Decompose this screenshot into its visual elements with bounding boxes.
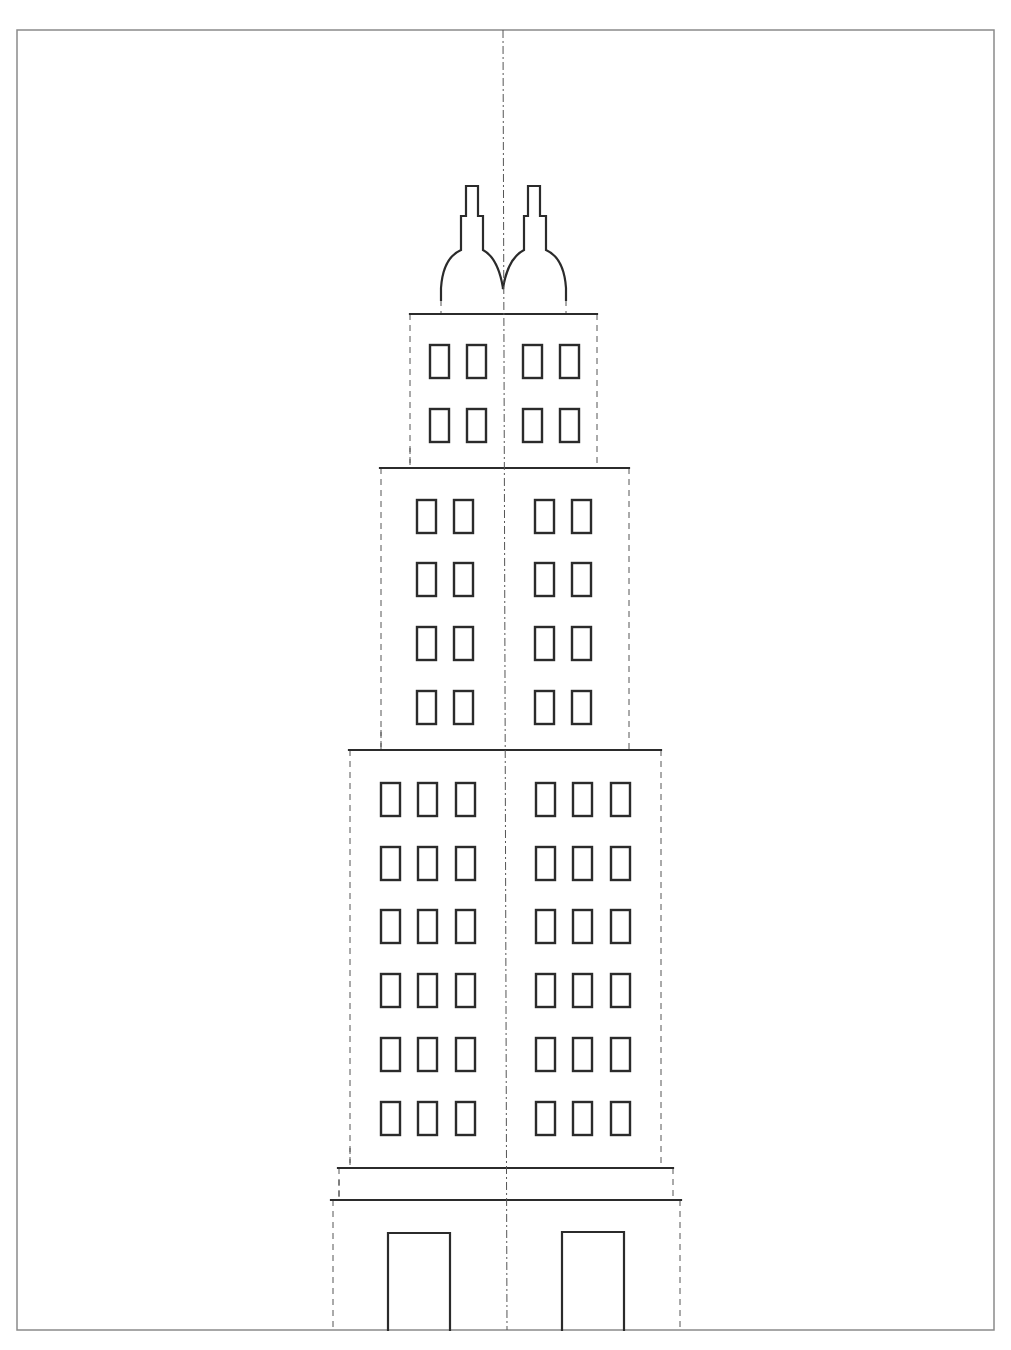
window [536,783,555,816]
window [430,409,449,442]
window [611,910,630,943]
doors [388,1232,624,1330]
window [536,1102,555,1135]
window [572,500,591,533]
window [381,1102,400,1135]
window [454,500,473,533]
window [418,847,437,880]
window [456,1038,475,1071]
window [454,691,473,724]
spire-left [441,186,503,300]
window [454,627,473,660]
window [430,345,449,378]
window [381,783,400,816]
window [560,409,579,442]
window [417,627,436,660]
window [573,783,592,816]
window [611,1038,630,1071]
door-left [388,1233,450,1330]
window [536,974,555,1007]
window [573,847,592,880]
window [535,500,554,533]
window [572,627,591,660]
pop-up-building-template [0,0,1011,1350]
window [417,563,436,596]
window [535,627,554,660]
window [418,783,437,816]
window [523,345,542,378]
window [535,691,554,724]
cut-lines [331,314,681,1200]
window [417,500,436,533]
window [456,910,475,943]
window [381,1038,400,1071]
window [456,974,475,1007]
center-fold-line [503,30,507,1330]
window [611,783,630,816]
window [536,910,555,943]
window [418,1038,437,1071]
window [381,910,400,943]
window [418,974,437,1007]
window [573,974,592,1007]
window [381,847,400,880]
window [572,563,591,596]
window [456,847,475,880]
window [418,1102,437,1135]
window [573,1102,592,1135]
window [467,345,486,378]
door-right [562,1232,624,1330]
window [456,1102,475,1135]
window [417,691,436,724]
window [560,345,579,378]
window [573,1038,592,1071]
window [572,691,591,724]
window [536,847,555,880]
window [611,1102,630,1135]
window [381,974,400,1007]
window [523,409,542,442]
window [535,563,554,596]
window [573,910,592,943]
window [454,563,473,596]
window [456,783,475,816]
page-frame [17,30,994,1330]
window [467,409,486,442]
window [611,974,630,1007]
window [418,910,437,943]
window [611,847,630,880]
spire-right [503,186,566,300]
window [536,1038,555,1071]
